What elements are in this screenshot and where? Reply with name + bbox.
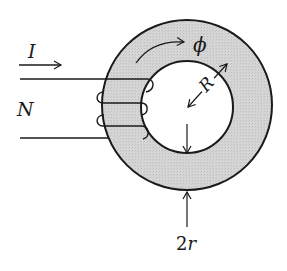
toroid-diagram: I N ϕ R 2r [0, 0, 287, 271]
radius-label: R [194, 72, 218, 96]
radius-indicator: R [188, 64, 227, 107]
diameter-label: 2r [176, 233, 197, 254]
current-label: I [27, 40, 36, 62]
toroid-core [102, 20, 272, 190]
turns-label: N [16, 98, 35, 120]
current-indicator: I [19, 40, 61, 65]
flux-label: ϕ [193, 33, 207, 57]
